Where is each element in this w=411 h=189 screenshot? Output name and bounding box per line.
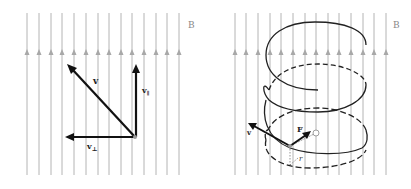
velocity-label: v: [246, 128, 252, 137]
origin-point: [133, 135, 137, 139]
left-panel: B v v∥ v⊥: [25, 13, 196, 175]
particle: [288, 144, 292, 148]
helical-motion-diagram: B v v∥ v⊥: [0, 0, 411, 189]
field-arrowheads: [233, 49, 389, 55]
velocity-vector: [248, 123, 290, 146]
magnetic-field-lines: [25, 13, 182, 175]
arrowhead-icon: [132, 64, 140, 73]
right-panel: B r v: [233, 13, 401, 175]
helix-path: [264, 22, 367, 168]
perpendicular-velocity-label: v⊥: [86, 141, 98, 152]
arrowhead-icon: [65, 133, 74, 141]
field-label-b: B: [188, 20, 195, 30]
field-label-b: B: [393, 20, 400, 30]
parallel-velocity-vector: [132, 64, 140, 137]
parallel-velocity-label: v∥: [141, 85, 150, 96]
velocity-vector: [67, 64, 135, 137]
circle-center: [313, 130, 319, 136]
velocity-label: v: [92, 76, 99, 86]
perpendicular-velocity-vector: [65, 133, 136, 141]
force-label: F: [297, 124, 303, 134]
radius-label: r: [299, 155, 303, 163]
field-arrowheads: [25, 49, 182, 55]
